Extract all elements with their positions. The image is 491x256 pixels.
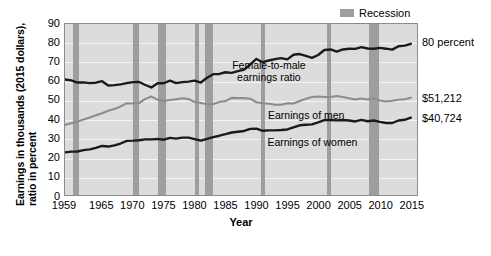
y-tick-label: 20	[36, 152, 60, 163]
x-tick-label: 2000	[306, 199, 330, 211]
legend: Recession	[340, 7, 410, 19]
x-tick-label: 2005	[337, 199, 361, 211]
y-axis-title-line-1: Earnings in thousands (2015 dollars),	[14, 23, 26, 206]
y-tick-label: 80	[36, 37, 60, 48]
chart-figure: Earnings in thousands (2015 dollars), ra…	[0, 0, 491, 256]
y-tick-label: 60	[36, 75, 60, 86]
x-tick-label: 1980	[182, 199, 206, 211]
x-axis-title: Year	[64, 216, 418, 228]
recession-legend-swatch	[340, 9, 354, 17]
y-tick-label: 70	[36, 56, 60, 67]
x-tick-label: 1970	[120, 199, 144, 211]
y-tick-label: 40	[36, 114, 60, 125]
plot-annotation: Female-to-male	[232, 59, 306, 71]
x-tick-label: 1990	[244, 199, 268, 211]
x-axis-ticks: 1959196519701975198019851990199520002005…	[0, 199, 491, 213]
series-end-label: 80 percent	[422, 36, 474, 48]
series-line	[65, 118, 411, 153]
series-end-label: $40,724	[422, 112, 462, 124]
y-tick-label: 10	[36, 171, 60, 182]
x-tick-label: 1965	[89, 199, 113, 211]
x-tick-label: 1985	[213, 199, 237, 211]
series-end-label: $51,212	[422, 92, 462, 104]
y-axis-ticks: 0102030405060708090	[34, 0, 60, 256]
x-tick-label: 1975	[151, 199, 175, 211]
x-tick-label: 1995	[275, 199, 299, 211]
y-tick-label: 90	[36, 18, 60, 29]
plot-annotation: earnings ratio	[237, 71, 301, 83]
plot-annotation: Earnings of men	[268, 109, 344, 121]
plot-area	[64, 23, 418, 196]
x-tick-label: 2015	[400, 199, 424, 211]
x-tick-label: 2010	[368, 199, 392, 211]
recession-legend-label: Recession	[359, 7, 410, 19]
plot-annotation: Earnings of women	[267, 136, 357, 148]
series-lines	[65, 24, 417, 195]
y-tick-label: 50	[36, 94, 60, 105]
y-tick-label: 30	[36, 133, 60, 144]
x-tick-label: 1959	[52, 199, 76, 211]
y-axis-title: Earnings in thousands (2015 dollars), ra…	[0, 0, 38, 210]
